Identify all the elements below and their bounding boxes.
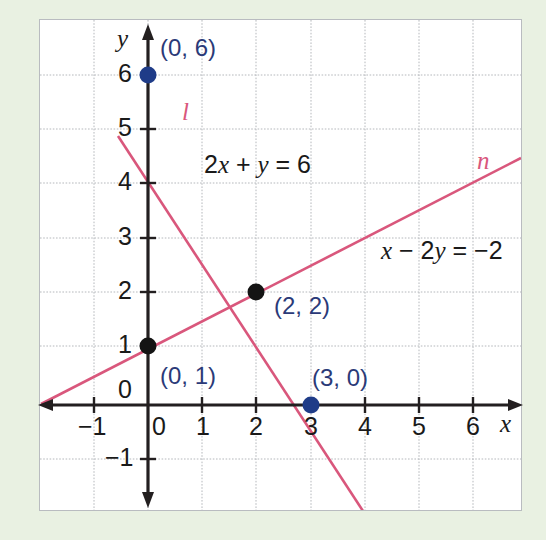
equation-label-n: x − 2y = −2 <box>381 238 503 263</box>
y-tick-neg1: −1 <box>105 445 134 470</box>
x-tick-1: 1 <box>196 414 210 439</box>
x-tick-3: 3 <box>304 414 318 439</box>
line-l <box>118 136 363 511</box>
x-tick-neg1: −1 <box>78 414 107 439</box>
line-n <box>41 158 521 404</box>
y-axis-name: y <box>117 26 128 51</box>
y-tick-3: 3 <box>118 224 132 249</box>
equation-n-var-x: x <box>381 237 392 264</box>
y-tick-1: 1 <box>118 332 132 357</box>
x-axis-name: x <box>500 411 511 436</box>
line-label-n: n <box>477 148 490 173</box>
equation-l-rhs: = 6 <box>269 150 311 178</box>
x-tick-2: 2 <box>249 414 263 439</box>
equation-l-plus: + <box>229 150 258 178</box>
grid-lines <box>40 20 521 510</box>
x-tick-6: 6 <box>466 414 480 439</box>
equation-label-l: 2x + y = 6 <box>204 152 311 177</box>
graph-canvas <box>0 0 546 540</box>
x-tick-4: 4 <box>358 414 372 439</box>
equation-n-rhs: = −2 <box>446 236 503 264</box>
line-label-l: l <box>182 99 189 124</box>
x-axis <box>38 397 523 413</box>
x-tick-0: 0 <box>152 414 166 439</box>
equation-n-coef: 2 <box>421 236 435 264</box>
point-marker-0-1 <box>140 338 157 355</box>
equation-n-minus: − <box>392 236 421 264</box>
point-label-3-0: (3, 0) <box>312 366 368 390</box>
graph-figure: y x 6 5 4 3 2 1 0 −1 −1 0 1 2 3 4 5 6 (0… <box>0 0 546 540</box>
y-tick-6: 6 <box>118 61 132 86</box>
y-tick-5: 5 <box>118 115 132 140</box>
y-tick-0: 0 <box>118 377 132 402</box>
equation-l-var-y: y <box>258 151 269 178</box>
point-marker-0-6 <box>140 67 157 84</box>
equation-l-var-x: x <box>218 151 229 178</box>
point-marker-3-0 <box>303 397 320 414</box>
y-tick-2: 2 <box>118 278 132 303</box>
y-tick-4: 4 <box>118 169 132 194</box>
point-label-0-1: (0, 1) <box>160 364 216 388</box>
equation-n-var-y: y <box>435 237 446 264</box>
x-tick-5: 5 <box>412 414 426 439</box>
point-label-0-6: (0, 6) <box>160 36 216 60</box>
equation-l-coef: 2 <box>204 150 218 178</box>
point-marker-2-2 <box>248 284 265 301</box>
point-label-2-2: (2, 2) <box>274 294 330 318</box>
